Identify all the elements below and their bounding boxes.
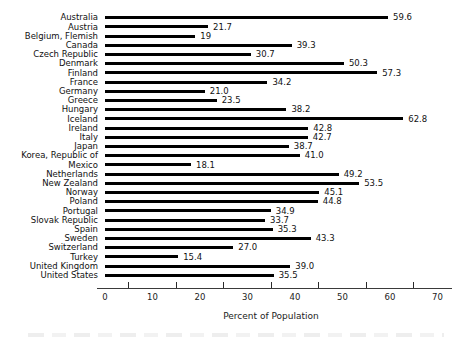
chart-row: Australia59.6 (0, 13, 456, 22)
bar-area: 34.9 (105, 207, 456, 216)
chart-row: Slovak Republic33.7 (0, 215, 456, 224)
value-label: 19 (200, 32, 211, 41)
country-label: United States (0, 271, 105, 280)
value-label: 44.8 (323, 197, 342, 206)
chart-row: Norway45.1 (0, 188, 456, 197)
x-axis-tick-label: 50 (328, 292, 358, 302)
chart-row: Austria21.7 (0, 22, 456, 31)
bar (105, 182, 359, 185)
value-label: 50.3 (349, 59, 368, 68)
chart-row: Hungary38.2 (0, 105, 456, 114)
bar-area: 53.5 (105, 179, 456, 188)
bar-area: 21.0 (105, 87, 456, 96)
value-label: 38.2 (291, 105, 310, 114)
bar-area: 50.3 (105, 59, 456, 68)
value-label: 62.8 (408, 115, 427, 124)
bar (105, 200, 318, 203)
bar-area: 27.0 (105, 243, 456, 252)
bar-area: 38.7 (105, 142, 456, 151)
value-label: 15.4 (183, 253, 202, 262)
bar-area: 38.2 (105, 105, 456, 114)
bar (105, 265, 290, 268)
chart-row: Poland44.8 (0, 197, 456, 206)
country-label: Australia (0, 13, 105, 22)
x-axis-title: Percent of Population (171, 311, 371, 321)
bar (105, 62, 344, 65)
chart-row: Finland57.3 (0, 68, 456, 77)
bar-area: 30.7 (105, 50, 456, 59)
bar-area: 21.7 (105, 23, 456, 32)
value-label: 35.5 (279, 271, 298, 280)
bar (105, 209, 271, 212)
bar (105, 81, 267, 84)
value-label: 42.8 (313, 124, 332, 133)
bar (105, 191, 319, 194)
bar-area: 45.1 (105, 188, 456, 197)
value-label: 30.7 (256, 50, 275, 59)
x-axis-tick (271, 282, 272, 288)
bar (105, 219, 265, 222)
bar (105, 25, 208, 28)
country-label: Austria (0, 23, 105, 32)
bar (105, 145, 289, 148)
bar-area: 62.8 (105, 115, 456, 124)
bar-area: 59.6 (105, 13, 456, 22)
country-label: France (0, 78, 105, 87)
country-label: Turkey (0, 253, 105, 262)
x-axis-tick-label: 70 (423, 292, 453, 302)
x-axis-tick (413, 282, 414, 288)
bar-area: 39.3 (105, 41, 456, 50)
value-label: 53.5 (364, 179, 383, 188)
bar (105, 255, 178, 258)
country-label: Portugal (0, 207, 105, 216)
chart-row: Italy42.7 (0, 133, 456, 142)
value-label: 59.6 (393, 13, 412, 22)
bar-area: 35.5 (105, 271, 456, 280)
x-axis-tick (128, 282, 129, 288)
bar (105, 35, 195, 38)
bar (105, 71, 377, 74)
bar (105, 173, 339, 176)
bar (105, 117, 403, 120)
country-label: Switzerland (0, 243, 105, 252)
x-axis-tick (318, 282, 319, 288)
bar-area: 42.8 (105, 124, 456, 133)
value-label: 42.7 (313, 133, 332, 142)
value-label: 41.0 (305, 151, 324, 160)
country-label: Mexico (0, 161, 105, 170)
bar (105, 108, 286, 111)
bar-area: 18.1 (105, 161, 456, 170)
bar (105, 127, 308, 130)
value-label: 39.0 (295, 262, 314, 271)
bar (105, 44, 292, 47)
bar-area: 42.7 (105, 133, 456, 142)
bar-area: 23.5 (105, 96, 456, 105)
chart-row: Switzerland27.0 (0, 243, 456, 252)
country-label: Korea, Republic of (0, 151, 105, 160)
bar-area: 57.3 (105, 69, 456, 78)
x-axis-tick-label: 30 (233, 292, 263, 302)
bar-area: 41.0 (105, 151, 456, 160)
bar (105, 246, 233, 249)
country-label: Iceland (0, 115, 105, 124)
x-axis-tick (223, 282, 224, 288)
bar (105, 163, 191, 166)
chart-row: Denmark50.3 (0, 59, 456, 68)
value-label: 18.1 (196, 161, 215, 170)
bar (105, 90, 205, 93)
x-axis-tick-label: 60 (375, 292, 405, 302)
country-label: Ireland (0, 124, 105, 133)
bar (105, 228, 273, 231)
x-axis-tick-label: 40 (280, 292, 310, 302)
value-label: 39.3 (297, 41, 316, 50)
bar-area: 43.3 (105, 234, 456, 243)
chart-row: United States35.5 (0, 271, 456, 280)
value-label: 23.5 (222, 96, 241, 105)
bar (105, 237, 311, 240)
bar (105, 136, 308, 139)
chart-row: Ireland42.8 (0, 123, 456, 132)
bar-area: 19 (105, 32, 456, 41)
chart-rows: Australia59.6Austria21.7Belgium, Flemish… (0, 13, 456, 280)
country-label: Poland (0, 197, 105, 206)
value-label: 49.2 (344, 170, 363, 179)
